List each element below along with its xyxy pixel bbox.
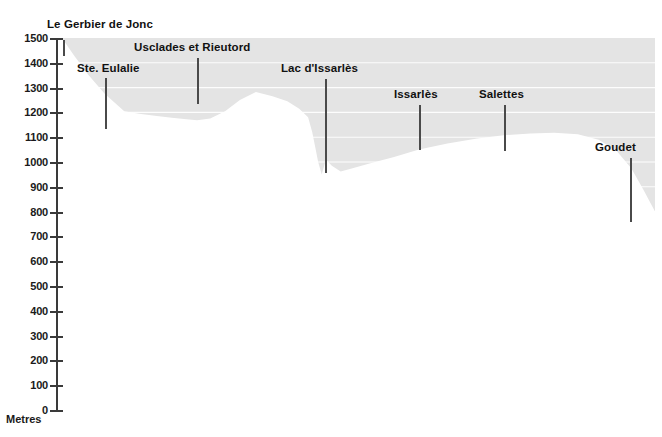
elevation-profile-chart: 1500 1400 1300 1200 1100 1000 900 800 70… xyxy=(0,0,662,437)
marker-rule-salettes xyxy=(504,105,506,151)
y-tick-label-1000: 1000 xyxy=(24,157,48,168)
y-tick-900 xyxy=(50,187,63,189)
marker-rule-issarles xyxy=(419,105,421,150)
y-tick-100 xyxy=(50,385,63,387)
y-tick-800 xyxy=(50,212,63,214)
marker-label-lac-dissarles: Lac d'Issarlès xyxy=(281,62,358,74)
y-tick-400 xyxy=(50,311,63,313)
y-tick-label-1500: 1500 xyxy=(24,33,48,44)
marker-rule-le-gerbier-de-jonc xyxy=(63,40,65,56)
y-tick-label-800: 800 xyxy=(30,207,48,218)
marker-label-le-gerbier-de-jonc: Le Gerbier de Jonc xyxy=(47,18,153,30)
y-tick-1200 xyxy=(50,112,63,114)
y-tick-1500 xyxy=(50,38,63,40)
y-axis-line xyxy=(56,38,58,411)
profile-svg xyxy=(62,38,655,410)
marker-label-ste-eulalie: Ste. Eulalie xyxy=(77,62,140,74)
y-tick-label-1300: 1300 xyxy=(24,83,48,94)
y-tick-label-400: 400 xyxy=(30,306,48,317)
y-tick-label-1200: 1200 xyxy=(24,107,48,118)
marker-label-usclades-et-rieutord: Usclades et Rieutord xyxy=(134,41,250,53)
y-tick-200 xyxy=(50,360,63,362)
marker-label-issarles: Issarlès xyxy=(394,88,438,100)
y-tick-label-500: 500 xyxy=(30,281,48,292)
marker-label-goudet: Goudet xyxy=(595,141,636,153)
marker-rule-goudet xyxy=(630,158,632,222)
y-tick-300 xyxy=(50,336,63,338)
y-axis-unit-label: Metres xyxy=(6,414,41,425)
marker-rule-usclades-et-rieutord xyxy=(197,58,199,104)
marker-rule-ste-eulalie xyxy=(105,78,107,129)
y-tick-500 xyxy=(50,286,63,288)
y-axis: 1500 1400 1300 1200 1100 1000 900 800 70… xyxy=(0,0,62,437)
y-tick-label-700: 700 xyxy=(30,231,48,242)
y-tick-label-900: 900 xyxy=(30,182,48,193)
y-tick-label-1100: 1100 xyxy=(25,132,48,143)
marker-label-salettes: Salettes xyxy=(479,88,524,100)
y-tick-1000 xyxy=(50,162,63,164)
y-tick-0 xyxy=(50,410,63,412)
y-tick-1400 xyxy=(50,63,63,65)
plot-area xyxy=(62,38,655,410)
y-tick-label-0: 0 xyxy=(42,405,48,416)
y-tick-1100 xyxy=(50,137,63,139)
y-tick-label-300: 300 xyxy=(30,331,48,342)
y-tick-label-600: 600 xyxy=(30,256,48,267)
y-tick-1300 xyxy=(50,88,63,90)
y-tick-600 xyxy=(50,261,63,263)
y-tick-label-100: 100 xyxy=(30,380,48,391)
y-tick-label-1400: 1400 xyxy=(24,58,48,69)
marker-rule-lac-dissarles xyxy=(325,79,327,173)
y-tick-label-200: 200 xyxy=(30,355,48,366)
y-tick-700 xyxy=(50,236,63,238)
